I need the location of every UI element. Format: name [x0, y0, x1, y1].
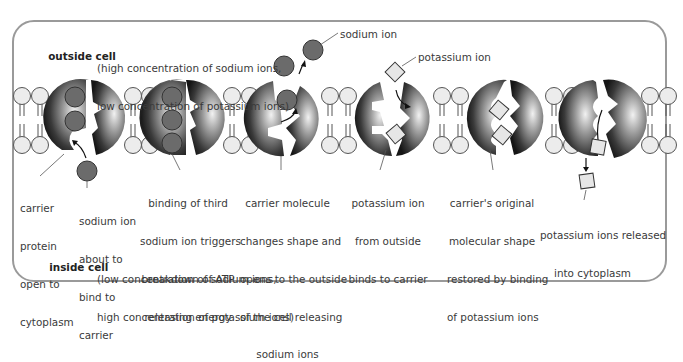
inside-cell-description: (low concentration of sodium ions, high … [97, 248, 294, 349]
carrier-protein-5 [467, 80, 544, 155]
outside-cell-description: (high concentration of sodium ions, low … [97, 37, 289, 138]
potassium-ion-callout: potassium ion [418, 51, 491, 64]
carrier-protein-4 [355, 62, 430, 156]
sodium-ion-callout: sodium ion [340, 28, 397, 41]
sodium-ion-incoming [77, 161, 97, 181]
step-5-caption: potassium ion from outside binds to carr… [348, 172, 428, 311]
step-7-caption: potassium ions released into cytoplasm [540, 204, 645, 305]
potassium-ion-released [579, 173, 595, 189]
sodium-ion-released [303, 40, 323, 60]
potassium-ion-incoming [385, 62, 405, 82]
carrier-protein-6 [558, 80, 646, 189]
step-6-caption: carrier's original molecular shape resto… [447, 172, 537, 348]
